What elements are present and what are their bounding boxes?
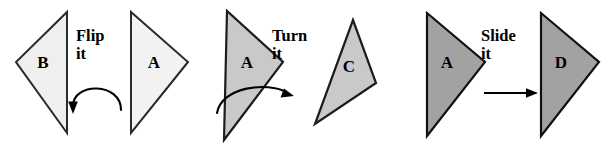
triangle-a-slide-label: A	[438, 54, 456, 71]
operation-verb-flip: Flip	[76, 27, 104, 45]
operation-label-slide: Slide it	[481, 27, 516, 62]
transformations-figure: B A Flip it A C Turn it	[0, 0, 613, 147]
straight-arrow-right-icon	[484, 88, 538, 98]
triangle-a-slide	[427, 13, 485, 136]
triangle-c-label: C	[340, 58, 358, 75]
panel-flip: B A Flip it	[0, 0, 200, 147]
operation-label-flip: Flip it	[76, 27, 104, 62]
panel-slide-graphics	[405, 0, 613, 147]
triangle-b-label: B	[34, 54, 52, 71]
operation-verb-turn: Turn	[272, 27, 307, 45]
triangle-d-label: D	[552, 54, 570, 71]
panel-slide: A D Slide it	[405, 0, 613, 147]
curved-arrow-left-icon	[68, 88, 121, 114]
panel-turn: A C Turn it	[200, 0, 405, 147]
panel-turn-graphics	[200, 0, 405, 147]
operation-suffix-flip: it	[76, 45, 104, 63]
panel-flip-graphics	[0, 0, 200, 147]
triangle-d	[541, 13, 599, 136]
operation-label-turn: Turn it	[272, 27, 307, 62]
triangle-a-turn-label: A	[238, 54, 256, 71]
operation-verb-slide: Slide	[481, 27, 516, 45]
operation-suffix-turn: it	[272, 45, 307, 63]
triangle-b	[16, 12, 67, 133]
triangle-a-label: A	[145, 54, 163, 71]
operation-suffix-slide: it	[481, 45, 516, 63]
triangle-a-flip	[131, 12, 188, 133]
